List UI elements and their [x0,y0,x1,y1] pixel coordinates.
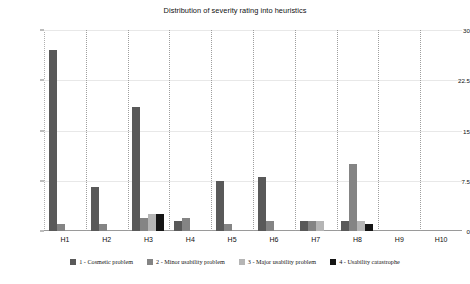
legend-item[interactable]: 2 - Minor usability problem [147,258,225,265]
bar-group [253,30,295,231]
bar [224,224,232,231]
x-axis-tick-label: H4 [186,236,195,243]
legend-item[interactable]: 1 - Cosmetic problem [70,258,133,265]
y-axis-tick-mark [40,80,44,81]
legend-swatch-icon [70,259,76,265]
bar [91,187,99,231]
legend-label: 2 - Minor usability problem [156,258,225,265]
legend-item[interactable]: 4 - Usability catastrophe [330,258,400,265]
chart-title: Distribution of severity rating into heu… [0,6,470,15]
y-axis-tick-mark [40,231,44,232]
bar [216,181,224,231]
bar [174,221,182,231]
bar [258,177,266,231]
plot-area [44,30,462,231]
bar [316,221,324,231]
y-axis-tick-label: 22.5 [432,77,470,84]
bar [308,221,316,231]
bar [365,224,373,231]
bar-group [128,30,170,231]
x-axis-tick-label: H8 [353,236,362,243]
bar [266,221,274,231]
legend-swatch-icon [239,259,245,265]
bar [99,224,107,231]
y-axis-tick-mark [40,130,44,131]
bar [357,221,365,231]
bar-group [169,30,211,231]
x-axis-tick-label: H7 [311,236,320,243]
x-axis-tick-label: H6 [269,236,278,243]
bar [132,107,140,231]
bar [49,50,57,231]
x-axis-tick-label: H1 [60,236,69,243]
bar [57,224,65,231]
bar [140,218,148,231]
y-axis-tick-label: 7.5 [432,177,470,184]
legend-label: 3 - Major usability problem [248,258,316,265]
bar-group [211,30,253,231]
x-axis-tick-label: H3 [144,236,153,243]
chart-figure: Distribution of severity rating into heu… [0,0,470,284]
legend-item[interactable]: 3 - Major usability problem [239,258,316,265]
x-axis-tick-label: H2 [102,236,111,243]
bar-group [337,30,379,231]
legend-swatch-icon [147,259,153,265]
bar-group [295,30,337,231]
x-axis-tick-label: H10 [435,236,448,243]
bar [341,221,349,231]
x-axis-tick-label: H5 [228,236,237,243]
legend-label: 1 - Cosmetic problem [79,258,133,265]
legend-swatch-icon [330,259,336,265]
bar-group [44,30,86,231]
y-axis-tick-label: 15 [432,127,470,134]
bar [349,164,357,231]
y-axis-tick-mark [40,180,44,181]
bar [182,218,190,231]
y-axis-tick-label: 0 [432,228,470,235]
y-axis-tick-label: 30 [432,27,470,34]
bar [300,221,308,231]
legend-label: 4 - Usability catastrophe [339,258,400,265]
bar-group [378,30,420,231]
y-axis-tick-mark [40,30,44,31]
x-axis-tick-label: H9 [395,236,404,243]
bar [156,214,164,231]
chart-legend: 1 - Cosmetic problem2 - Minor usability … [0,258,470,265]
bar-group [86,30,128,231]
bar [148,214,156,231]
